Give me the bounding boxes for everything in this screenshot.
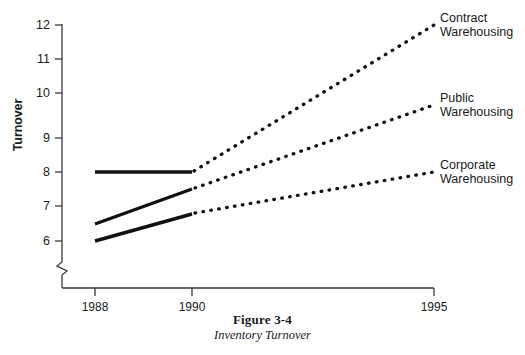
y-tick-label-12: 12 <box>28 19 50 31</box>
y-tick-label-7: 7 <box>28 200 50 212</box>
series-label-contract-line2: Warehousing <box>440 25 513 39</box>
y-axis-title: Turnover <box>11 85 25 165</box>
series-label-corporate-line2: Warehousing <box>440 172 513 186</box>
series-label-public-line2: Warehousing <box>440 105 513 119</box>
figure-caption: Figure 3-4 Inventory Turnover <box>0 312 525 343</box>
series-label-contract: Contract Warehousing <box>440 11 513 39</box>
series-label-public: Public Warehousing <box>440 91 513 119</box>
figure-caption-subtitle: Inventory Turnover <box>0 328 525 343</box>
series-line-contract-dotted <box>194 25 434 171</box>
y-axis-break-symbol <box>57 262 67 288</box>
figure-inventory-turnover: Turnover 12 11 10 9 8 7 6 1988 1990 1995… <box>0 0 525 355</box>
series-line-public-dotted <box>195 105 434 188</box>
y-tick-label-6: 6 <box>28 235 50 247</box>
y-tick-label-8: 8 <box>28 166 50 178</box>
y-tick-label-10: 10 <box>28 87 50 99</box>
figure-caption-title: Figure 3-4 <box>0 312 525 328</box>
series-label-public-line1: Public <box>440 91 474 105</box>
y-tick-label-11: 11 <box>28 53 50 65</box>
series-label-corporate: Corporate Warehousing <box>440 158 513 186</box>
series-label-corporate-line1: Corporate <box>440 158 496 172</box>
x-axis-ticks <box>95 288 434 296</box>
series-label-contract-line1: Contract <box>440 11 487 25</box>
y-tick-label-9: 9 <box>28 132 50 144</box>
y-axis-ticks <box>55 25 62 241</box>
series-line-corporate-dotted <box>195 172 434 213</box>
